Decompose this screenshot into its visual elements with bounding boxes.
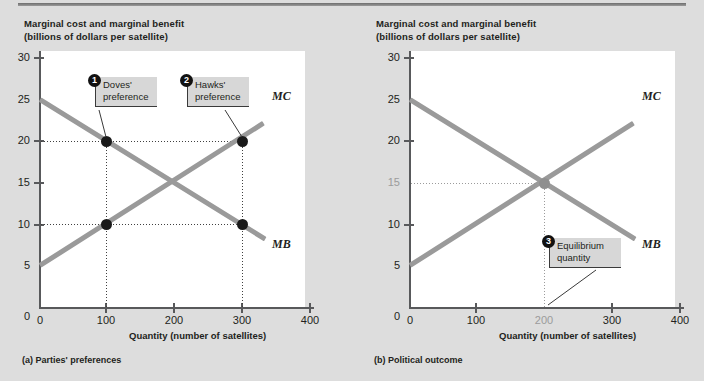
callout-badge-2[interactable]: 2 <box>180 74 193 87</box>
figure-container: Marginal cost and marginal benefit (bill… <box>0 0 704 381</box>
panel-caption-a: (a) Parties' preferences <box>22 355 121 365</box>
panel-parties-preferences: Marginal cost and marginal benefit (bill… <box>0 0 352 381</box>
callout-leader-lines <box>0 0 352 381</box>
callout-leader-lines <box>352 0 704 381</box>
panel-caption-b: (b) Political outcome <box>374 355 463 365</box>
panel-political-outcome: Marginal cost and marginal benefit (bill… <box>352 0 704 381</box>
callout-doves-preference[interactable]: Doves' preference <box>95 77 157 107</box>
callout-hawks-preference[interactable]: Hawks' preference <box>187 77 249 107</box>
callout-badge-3[interactable]: 3 <box>542 235 555 248</box>
callout-equilibrium-quantity[interactable]: Equilibrium quantity <box>549 238 621 268</box>
callout-badge-1[interactable]: 1 <box>88 74 101 87</box>
